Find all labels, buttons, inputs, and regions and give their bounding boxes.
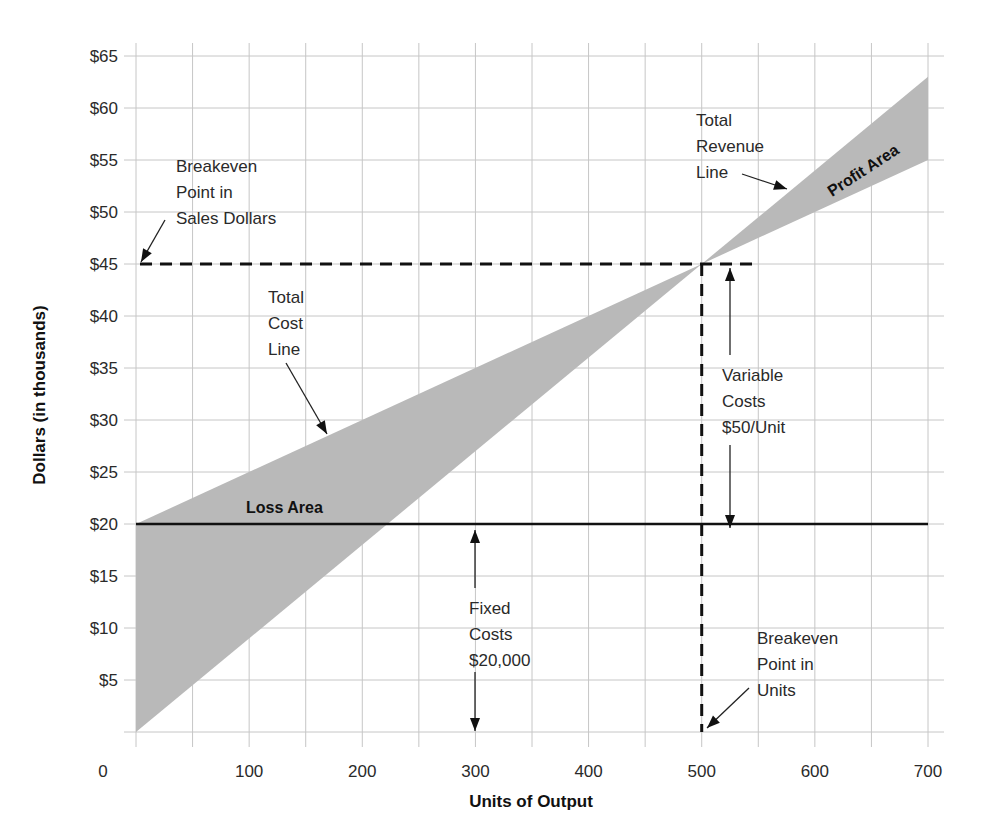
annotation-breakeven-sales: BreakevenPoint inSales Dollars [176, 157, 276, 228]
y-axis-title: Dollars (in thousands) [30, 305, 49, 484]
y-tick-label: $65 [90, 47, 118, 66]
y-tick-label: $30 [90, 411, 118, 430]
breakeven-units-arrow [707, 688, 749, 728]
annotation-line: Costs [722, 392, 765, 411]
total-revenue-arrow [742, 174, 787, 190]
y-tick-label: $55 [90, 151, 118, 170]
annotation-total-cost: TotalCostLine [268, 288, 304, 359]
variable-costs-up-arrow [725, 268, 735, 355]
x-tick-label: 200 [348, 762, 376, 781]
arrowhead-icon [725, 515, 735, 528]
y-tick-label: $25 [90, 463, 118, 482]
loss-area-label: Loss Area [246, 499, 323, 516]
annotation-line: Variable [722, 366, 783, 385]
y-tick-label: $50 [90, 203, 118, 222]
annotation-line: Point in [757, 655, 814, 674]
annotation-line: Line [696, 163, 728, 182]
y-tick-label: $35 [90, 359, 118, 378]
y-tick-label: $15 [90, 567, 118, 586]
x-tick-label: 700 [914, 762, 942, 781]
total-cost-arrow [286, 363, 327, 434]
x-tick-label: 0 [98, 762, 107, 781]
arrowhead-icon [470, 718, 480, 731]
y-tick-label: $5 [99, 671, 118, 690]
annotation-line: Breakeven [176, 157, 257, 176]
annotation-line: Sales Dollars [176, 209, 276, 228]
x-tick-label: 400 [574, 762, 602, 781]
x-tick-label: 500 [688, 762, 716, 781]
annotation-breakeven-units: BreakevenPoint inUnits [757, 629, 838, 700]
y-tick-label: $10 [90, 619, 118, 638]
x-tick-label: 100 [235, 762, 263, 781]
annotation-line: Cost [268, 314, 303, 333]
arrowhead-icon [316, 420, 327, 434]
annotation-line: Total [268, 288, 304, 307]
annotation-variable-costs: VariableCosts$50/Unit [722, 366, 786, 437]
variable-costs-down-arrow [725, 445, 735, 528]
annotation-line: Breakeven [757, 629, 838, 648]
annotation-total-revenue: TotalRevenueLine [696, 111, 764, 182]
y-tick-label: $45 [90, 255, 118, 274]
annotation-line: Line [268, 340, 300, 359]
breakeven-chart: 0100200300400500600700$5$10$15$20$25$30$… [0, 0, 995, 839]
y-tick-label: $60 [90, 99, 118, 118]
annotation-line: Costs [469, 625, 512, 644]
fixed-costs-up-arrow [470, 530, 480, 588]
x-tick-label: 300 [461, 762, 489, 781]
x-axis-title: Units of Output [469, 792, 593, 811]
annotation-line: Total [696, 111, 732, 130]
arrowhead-icon [725, 268, 735, 281]
breakeven-sales-arrow [141, 220, 165, 262]
arrowhead-icon [773, 180, 787, 189]
arrowhead-icon [141, 248, 152, 262]
arrowhead-icon [470, 530, 480, 543]
annotation-line: Fixed [469, 599, 511, 618]
y-tick-label: $20 [90, 515, 118, 534]
annotation-line: Revenue [696, 137, 764, 156]
annotation-fixed-costs: FixedCosts$20,000 [469, 599, 530, 670]
y-tick-label: $40 [90, 307, 118, 326]
annotation-line: $50/Unit [722, 418, 786, 437]
annotation-line: $20,000 [469, 651, 530, 670]
annotation-line: Point in [176, 183, 233, 202]
x-tick-label: 600 [801, 762, 829, 781]
fixed-costs-down-arrow [470, 672, 480, 731]
annotation-line: Units [757, 681, 796, 700]
